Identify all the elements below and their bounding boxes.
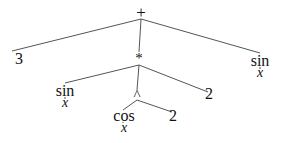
edge-root-three (12, 19, 141, 51)
node-cos-arg: x (121, 121, 127, 135)
node-sin-left-arg: x (62, 96, 68, 110)
edge-pow-two (137, 100, 172, 112)
node-sin-right-arg: x (257, 66, 263, 80)
edge-root-mul (139, 19, 141, 52)
node-power: ^ (133, 88, 140, 103)
edge-mul-sin (65, 65, 139, 83)
node-two-mul: 2 (205, 86, 213, 102)
edge-root-sin (141, 19, 260, 53)
edge-mul-two (139, 65, 208, 92)
node-two-pow: 2 (169, 108, 177, 124)
node-multiply: * (135, 51, 143, 66)
node-three: 3 (15, 51, 23, 67)
node-plus: + (136, 4, 146, 21)
